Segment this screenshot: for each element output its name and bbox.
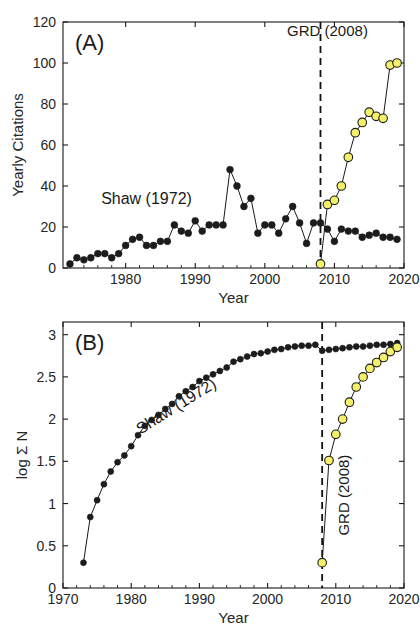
y-tick-label: 1.5 <box>37 453 57 469</box>
data-point-shaw <box>319 348 325 354</box>
data-point-grd <box>379 114 388 123</box>
data-point-shaw <box>278 346 284 352</box>
data-point-shaw <box>129 236 136 243</box>
panel-a: 19801990200020102020020406080100120(A)Sh… <box>9 14 420 306</box>
x-tick-label: 2010 <box>319 271 350 287</box>
data-point-grd <box>338 415 347 424</box>
data-point-shaw <box>331 238 338 245</box>
data-point-shaw <box>115 459 121 465</box>
annotation-shaw: Shaw (1972) <box>133 375 219 437</box>
data-point-shaw <box>231 359 237 365</box>
data-point-shaw <box>296 220 303 227</box>
y-tick-label: 0.5 <box>37 538 57 554</box>
data-point-shaw <box>171 222 178 229</box>
data-point-shaw <box>285 344 291 350</box>
data-point-shaw <box>217 368 223 374</box>
citation-figure: 19801990200020102020020406080100120(A)Sh… <box>0 0 420 635</box>
data-point-shaw <box>121 452 127 458</box>
data-point-shaw <box>80 256 87 263</box>
y-tick-label: 0 <box>48 260 56 276</box>
panel-letter-label: (A) <box>75 30 104 55</box>
data-point-grd <box>345 398 354 407</box>
data-point-shaw <box>271 347 277 353</box>
data-point-shaw <box>213 222 220 229</box>
data-point-shaw <box>338 226 345 233</box>
data-point-shaw <box>220 222 227 229</box>
data-point-shaw <box>289 203 296 210</box>
data-point-shaw <box>74 254 81 261</box>
data-point-shaw <box>360 343 366 349</box>
data-point-shaw <box>185 230 192 237</box>
annotation-grd: GRD (2008) <box>287 22 368 39</box>
data-point-shaw <box>299 343 305 349</box>
x-tick-label: 1980 <box>110 271 141 287</box>
x-axis-title: Year <box>218 289 248 306</box>
data-point-shaw <box>251 351 257 357</box>
data-point-shaw <box>261 222 268 229</box>
y-tick-label: 3 <box>48 327 56 343</box>
x-tick-label: 1980 <box>116 591 147 607</box>
data-point-shaw <box>310 220 317 227</box>
y-tick-label: 2 <box>48 411 56 427</box>
data-point-grd <box>359 373 368 382</box>
y-axis-title: log Σ N <box>13 431 30 479</box>
y-tick-label: 60 <box>40 137 56 153</box>
data-point-shaw <box>282 215 289 222</box>
y-tick-label: 120 <box>33 14 57 30</box>
data-point-grd <box>351 128 360 137</box>
data-point-grd <box>352 383 361 392</box>
data-point-shaw <box>306 343 312 349</box>
data-point-shaw <box>143 242 150 249</box>
series-line-shaw <box>70 170 397 264</box>
data-point-shaw <box>248 195 255 202</box>
data-point-shaw <box>345 228 352 235</box>
x-tick-label: 2000 <box>249 271 280 287</box>
data-point-shaw <box>108 254 115 261</box>
data-point-shaw <box>164 238 171 245</box>
data-point-shaw <box>224 365 230 371</box>
data-point-grd <box>358 118 367 127</box>
data-point-shaw <box>312 342 318 348</box>
y-tick-label: 80 <box>40 96 56 112</box>
data-point-shaw <box>227 166 234 173</box>
x-tick-label: 1990 <box>184 591 215 607</box>
y-tick-label: 1 <box>48 496 56 512</box>
data-point-grd <box>393 59 402 68</box>
data-point-shaw <box>241 203 248 210</box>
data-point-grd <box>316 260 325 269</box>
panel-b: 19701980199020002010202000.511.522.53(B)… <box>13 322 420 626</box>
data-point-shaw <box>326 347 332 353</box>
data-point-grd <box>337 182 346 191</box>
data-point-grd <box>325 456 334 465</box>
data-point-shaw <box>394 236 401 243</box>
annotation-shaw: Shaw (1972) <box>101 190 192 207</box>
data-point-shaw <box>136 234 143 241</box>
data-point-grd <box>332 430 341 439</box>
data-point-shaw <box>206 222 213 229</box>
data-point-shaw <box>275 230 282 237</box>
data-point-shaw <box>128 443 134 449</box>
data-point-shaw <box>254 230 261 237</box>
figure-svg: 19801990200020102020020406080100120(A)Sh… <box>0 0 420 635</box>
data-point-shaw <box>303 240 310 247</box>
data-point-shaw <box>244 354 250 360</box>
x-axis-title: Year <box>218 609 248 626</box>
data-point-shaw <box>101 250 108 257</box>
data-point-shaw <box>292 343 298 349</box>
data-point-shaw <box>352 228 359 235</box>
data-point-shaw <box>333 346 339 352</box>
panel-letter-label: (B) <box>75 330 104 355</box>
data-point-shaw <box>122 242 129 249</box>
data-point-shaw <box>387 341 393 347</box>
data-point-shaw <box>317 220 324 227</box>
data-point-shaw <box>265 349 271 355</box>
data-point-shaw <box>101 481 107 487</box>
data-point-shaw <box>367 343 373 349</box>
data-point-shaw <box>199 228 206 235</box>
data-point-shaw <box>381 342 387 348</box>
data-point-shaw <box>87 254 94 261</box>
data-point-shaw <box>373 230 380 237</box>
data-point-shaw <box>80 560 86 566</box>
x-tick-label: 2020 <box>388 271 419 287</box>
x-tick-label: 2020 <box>388 591 419 607</box>
